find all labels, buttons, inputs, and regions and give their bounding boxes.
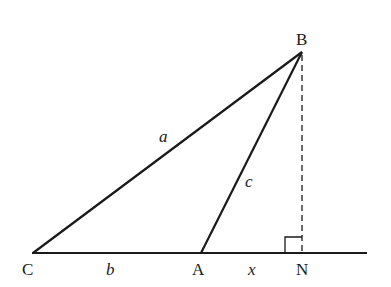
label-A: A	[192, 260, 205, 279]
label-x: x	[247, 260, 256, 279]
side-c	[201, 52, 302, 253]
side-a	[33, 52, 302, 253]
label-side-b: b	[106, 260, 115, 279]
right-angle-marker	[285, 237, 302, 253]
label-side-a: a	[159, 127, 168, 146]
label-B: B	[296, 30, 307, 49]
label-side-c: c	[245, 172, 253, 191]
triangle-diagram: B C A N a b c x	[0, 0, 391, 287]
label-C: C	[22, 260, 33, 279]
label-N: N	[296, 260, 308, 279]
